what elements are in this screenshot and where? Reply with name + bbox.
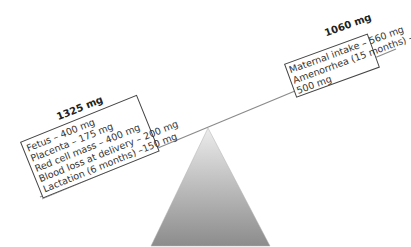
seesaw-graphic [0,0,411,247]
fulcrum-triangle [151,128,270,246]
